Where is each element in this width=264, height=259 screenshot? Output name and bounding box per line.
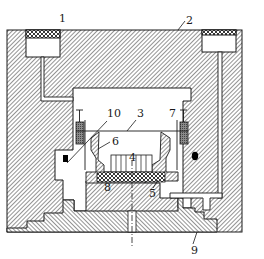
label-4: 4 <box>129 151 136 164</box>
label-1: 1 <box>59 12 66 25</box>
label-6: 6 <box>112 135 119 148</box>
label-9: 9 <box>191 244 198 257</box>
label-8: 8 <box>104 181 111 194</box>
label-2: 2 <box>186 14 193 27</box>
label-3: 3 <box>137 107 144 120</box>
cross-section-figure: 1 2 3 4 5 6 7 8 9 10 <box>0 0 264 259</box>
label-10: 10 <box>107 107 121 120</box>
label-7: 7 <box>169 107 176 120</box>
label-5: 5 <box>149 187 156 200</box>
